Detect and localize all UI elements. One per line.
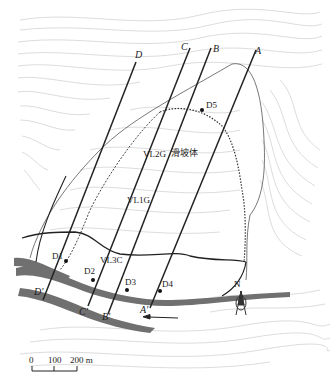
borehole-label-VL1G: VL1G xyxy=(127,196,150,205)
borehole-label-VL3C: VL3C xyxy=(100,256,123,265)
point-label-D5: D5 xyxy=(206,101,217,110)
flow-arrow xyxy=(143,315,178,320)
inner-boundary xyxy=(60,112,160,270)
section-label-B: B xyxy=(213,44,219,54)
point-D4 xyxy=(158,289,162,293)
map-canvas xyxy=(0,0,332,381)
section-label-B-prime: B' xyxy=(102,312,110,322)
point-label-D1: D1 xyxy=(52,252,63,261)
scale-label-200: 200 m xyxy=(70,356,93,365)
landslide-label: 滑坡体 xyxy=(171,149,198,158)
section-line-B xyxy=(108,48,211,314)
north-label: N xyxy=(234,280,241,289)
scale-label-100: 100 xyxy=(48,356,62,365)
point-label-D2: D2 xyxy=(84,267,95,276)
contour-lines xyxy=(18,9,330,368)
section-label-C: C xyxy=(181,42,188,52)
point-D5 xyxy=(200,108,204,112)
section-label-A: A xyxy=(255,46,261,56)
section-label-C-prime: C' xyxy=(79,307,88,317)
landslide-boundary xyxy=(30,64,264,280)
point-D2 xyxy=(91,278,95,282)
landslide-map: A B C D A' B' C' D' D5 D1 D2 D3 D4 VL2G … xyxy=(0,0,332,381)
section-label-A-prime: A' xyxy=(140,305,148,315)
section-line-C xyxy=(88,48,190,306)
point-label-D3: D3 xyxy=(125,278,136,287)
north-arrow-icon xyxy=(236,291,246,315)
section-lines xyxy=(43,48,256,314)
section-label-D-prime: D' xyxy=(34,287,43,297)
point-D3 xyxy=(125,288,129,292)
borehole-label-VL2G: VL2G xyxy=(143,150,166,159)
scale-bar xyxy=(32,366,77,371)
point-D1 xyxy=(64,259,68,263)
left-gully xyxy=(36,176,66,262)
section-label-D: D xyxy=(135,50,142,60)
scale-label-0: 0 xyxy=(29,356,34,365)
point-label-D4: D4 xyxy=(162,280,173,289)
